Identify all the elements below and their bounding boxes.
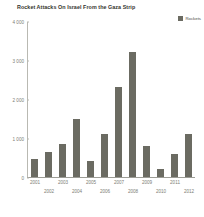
x-tick-label-2008: 2008 xyxy=(128,189,138,194)
bar-2012 xyxy=(185,134,192,177)
x-tick-label-2009: 2009 xyxy=(142,180,152,185)
bar-2001 xyxy=(31,159,38,177)
bar-2011 xyxy=(171,154,178,177)
bar-2007 xyxy=(115,87,122,177)
y-tick-label: 2 000 xyxy=(13,98,28,103)
bar-slot xyxy=(28,22,42,177)
x-tick-label-2002: 2002 xyxy=(44,189,54,194)
x-tick-label-2010: 2010 xyxy=(156,189,166,194)
x-tick-label-2012: 2012 xyxy=(184,189,194,194)
bar-2004 xyxy=(73,119,80,178)
x-tick-label-2003: 2003 xyxy=(58,180,68,185)
y-tick-label: 4 000 xyxy=(13,20,28,25)
x-tick-label-2004: 2004 xyxy=(72,189,82,194)
y-tick-mark xyxy=(27,178,29,179)
bar-slot xyxy=(181,22,195,177)
bar-2009 xyxy=(143,146,150,177)
bar-2006 xyxy=(101,134,108,177)
bar-slot xyxy=(153,22,167,177)
bar-series-rockets xyxy=(28,22,195,177)
bar-slot xyxy=(167,22,181,177)
bar-2010 xyxy=(157,169,164,177)
x-tick-label-2005: 2005 xyxy=(86,180,96,185)
bar-slot xyxy=(112,22,126,177)
square-swatch-icon xyxy=(178,16,183,21)
chart-title: Rocket Attacks On Israel From the Gaza S… xyxy=(17,4,177,11)
bar-slot xyxy=(42,22,56,177)
bar-2002 xyxy=(45,152,52,177)
x-tick-label-2001: 2001 xyxy=(30,180,40,185)
y-tick-label: 1 000 xyxy=(13,137,28,142)
bar-slot xyxy=(56,22,70,177)
y-tick-label: 3 000 xyxy=(13,59,28,64)
bar-slot xyxy=(139,22,153,177)
x-axis-labels: 2001200220032004200520062007200820092010… xyxy=(28,180,196,204)
rocket-attacks-bar-chart: Rocket Attacks On Israel From the Gaza S… xyxy=(0,0,204,217)
legend-item-rockets: Rockets xyxy=(185,16,201,21)
bar-2003 xyxy=(59,144,66,177)
x-tick-label-2006: 2006 xyxy=(100,189,110,194)
bar-slot xyxy=(70,22,84,177)
chart-legend: Rockets xyxy=(178,16,201,21)
bar-slot xyxy=(125,22,139,177)
x-tick-label-2011: 2011 xyxy=(170,180,180,185)
bar-2005 xyxy=(87,161,94,177)
bar-slot xyxy=(98,22,112,177)
bar-slot xyxy=(84,22,98,177)
plot-area: 01 0002 0003 0004 000 xyxy=(27,22,195,178)
bar-2008 xyxy=(129,52,136,177)
x-tick-label-2007: 2007 xyxy=(114,180,124,185)
x-axis-line xyxy=(27,177,195,178)
